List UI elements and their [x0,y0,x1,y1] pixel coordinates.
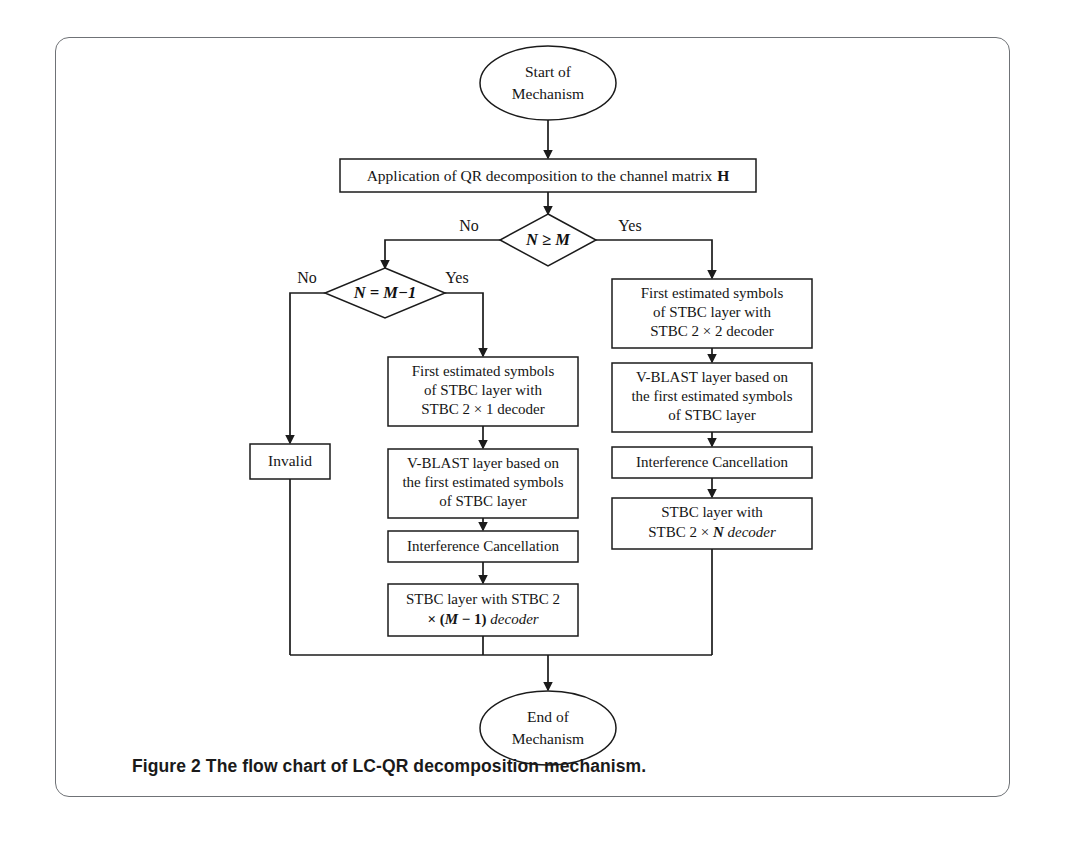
edge-decision-nm-no [385,240,500,268]
right-stbc-layer-suffix: decoder [724,524,776,540]
qr-step-matrix-symbol: H [717,166,729,183]
edge-decision-nm-yes [596,240,712,278]
branch-label-nm1-no: No [297,269,317,286]
mid-stbc-layer-mid: − 1) [458,611,490,628]
end-line-2: Mechanism [512,730,584,747]
right-stbc-layer-line-2: STBC 2 × N decoder [648,524,776,540]
right-stbc-layer-line-1: STBC layer with [661,504,763,520]
mid-vblast-line-1: V-BLAST layer based on [407,455,560,471]
edge-decision-nm1-no [290,293,325,443]
node-right-interference[interactable]: Interference Cancellation [612,447,812,478]
mid-stbc-layer-line-2: × (M − 1) decoder [427,611,538,628]
right-stbc-layer-prefix: STBC 2 × [648,524,713,540]
mid-stbc-layer-prefix: × ( [427,611,444,628]
figure-caption-text: The flow chart of LC-QR decomposition me… [206,756,646,776]
node-end[interactable]: End of Mechanism [480,691,616,765]
start-line-1: Start of [525,63,572,80]
figure-caption-label: Figure 2 [132,756,201,776]
mid-first-est-line-2: of STBC layer with [424,382,542,398]
node-right-first-est[interactable]: First estimated symbols of STBC layer wi… [612,279,812,348]
qr-step-line-1: Application of QR decomposition to the c… [367,166,713,183]
flowchart-canvas: No Yes No Yes Start of Mechanism Applica… [0,0,1065,843]
mid-stbc-layer-line-1: STBC layer with STBC 2 [406,591,560,607]
end-ellipse-shape [480,691,616,765]
node-mid-vblast[interactable]: V-BLAST layer based on the first estimat… [388,449,578,518]
branch-label-nm-no: No [459,217,479,234]
right-vblast-line-2: the first estimated symbols [631,388,792,404]
start-line-2: Mechanism [512,85,584,102]
node-mid-first-est[interactable]: First estimated symbols of STBC layer wi… [388,357,578,426]
node-decision-nm[interactable]: N ≥ M [500,214,596,266]
right-first-est-line-3: STBC 2 × 2 decoder [650,323,773,339]
start-ellipse-shape [480,46,616,120]
branch-label-nm-yes: Yes [618,217,641,234]
node-mid-interference[interactable]: Interference Cancellation [388,531,578,562]
invalid-label: Invalid [268,452,312,469]
qr-step-text: Application of QR decomposition to the c… [367,166,730,183]
mid-vblast-line-3: of STBC layer [439,493,527,509]
mid-vblast-line-2: the first estimated symbols [402,474,563,490]
node-right-vblast[interactable]: V-BLAST layer based on the first estimat… [612,363,812,432]
decision-nm-text: N ≥ M [525,230,571,249]
mid-stbc-layer-var: M [444,611,459,627]
node-start[interactable]: Start of Mechanism [480,46,616,120]
mid-first-est-line-1: First estimated symbols [412,363,555,379]
right-vblast-line-3: of STBC layer [668,407,756,423]
figure-caption: Figure 2 The flow chart of LC-QR decompo… [132,756,932,777]
node-right-stbc-layer[interactable]: STBC layer with STBC 2 × N decoder [612,498,812,549]
end-line-1: End of [527,708,570,725]
mid-stbc-layer-suffix: decoder [490,611,538,627]
edge-decision-nm1-yes [445,293,483,356]
page-canvas: No Yes No Yes Start of Mechanism Applica… [0,0,1065,843]
branch-label-nm1-yes: Yes [445,269,468,286]
right-interference-label: Interference Cancellation [636,454,788,470]
mid-interference-label: Interference Cancellation [407,538,559,554]
node-decision-nm1[interactable]: N = M−1 [325,268,445,318]
mid-first-est-line-3: STBC 2 × 1 decoder [421,401,544,417]
right-first-est-line-1: First estimated symbols [641,285,784,301]
node-qr-step[interactable]: Application of QR decomposition to the c… [340,159,756,192]
right-first-est-line-2: of STBC layer with [653,304,771,320]
right-vblast-line-1: V-BLAST layer based on [636,369,789,385]
node-invalid[interactable]: Invalid [250,444,330,479]
node-mid-stbc-layer[interactable]: STBC layer with STBC 2 × (M − 1) decoder [388,584,578,636]
decision-nm1-text: N = M−1 [353,283,417,302]
